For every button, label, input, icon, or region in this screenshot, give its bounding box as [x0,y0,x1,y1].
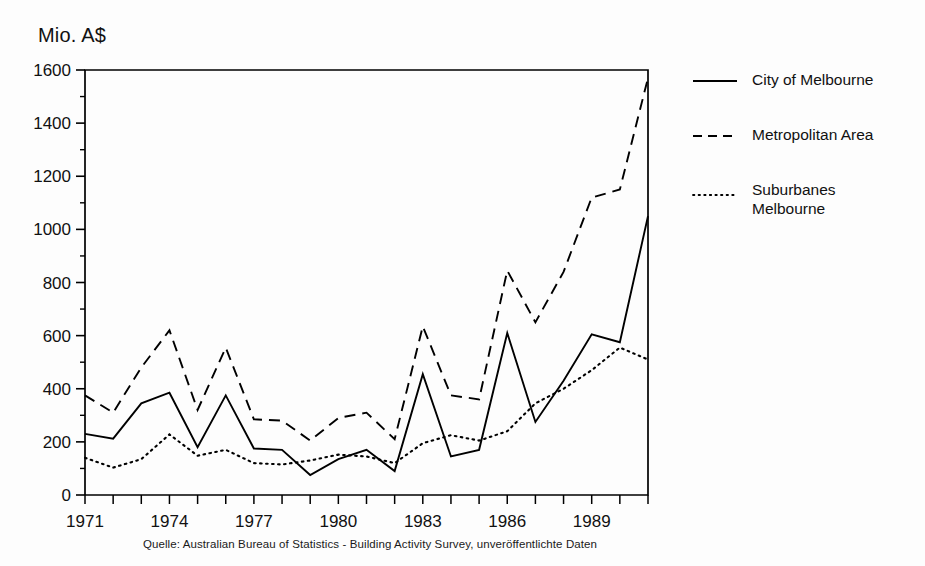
legend-item-city-of-melbourne: City of Melbourne [692,70,922,89]
x-tick-label: 1977 [235,512,273,531]
y-tick-label: 400 [43,380,71,399]
y-tick-label: 1400 [33,114,71,133]
legend-label-2: Suburbanes Melbourne [752,180,836,218]
legend-item-metropolitan-area: Metropolitan Area [692,125,922,144]
legend-label-1: Metropolitan Area [752,125,874,144]
y-tick-label: 1600 [33,61,71,80]
y-tick-label: 200 [43,433,71,452]
x-tick-label: 1980 [319,512,357,531]
x-tick-label: 1986 [488,512,526,531]
series-line-1 [85,78,648,441]
x-tick-label: 1983 [404,512,442,531]
x-tick-label: 1974 [151,512,189,531]
legend-item-suburbanes-melbourne: Suburbanes Melbourne [692,180,922,218]
chart-source-caption: Quelle: Australian Bureau of Statistics … [0,538,740,550]
legend-swatch-solid-icon [692,73,738,89]
legend-swatch-dashed-icon [692,128,738,144]
y-tick-label: 1200 [33,167,71,186]
y-tick-label: 0 [62,486,71,505]
y-tick-label: 1000 [33,220,71,239]
x-tick-label: 1989 [573,512,611,531]
legend-swatch-dotted-icon [692,183,738,199]
series-line-0 [85,216,648,475]
legend-label-0: City of Melbourne [752,70,873,89]
y-tick-label: 600 [43,327,71,346]
y-tick-label: 800 [43,274,71,293]
chart-page: Mio. A$ 02004006008001000120014001600197… [0,0,925,566]
chart-legend: City of Melbourne Metropolitan Area Subu… [692,70,922,254]
x-tick-label: 1971 [66,512,104,531]
